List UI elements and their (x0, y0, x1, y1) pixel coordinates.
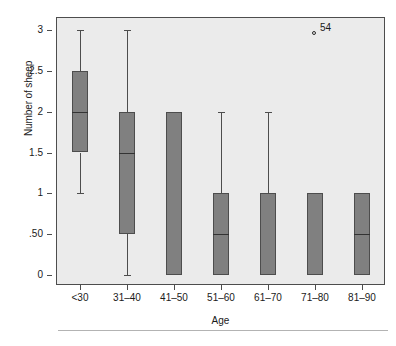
y-axis-tick: 1 (0, 193, 52, 194)
x-axis-tick-mark (362, 285, 363, 290)
x-axis-tick-mark (221, 285, 222, 290)
y-axis-tick-mark (47, 30, 52, 31)
whisker-lower (80, 153, 81, 194)
x-axis-tick-label: 81–90 (332, 292, 392, 303)
whisker-lower-cap (124, 275, 131, 276)
y-axis-tick-mark (47, 275, 52, 276)
median-line (119, 153, 135, 154)
y-axis-tick-label: 2 (37, 105, 43, 118)
median-line (213, 234, 229, 235)
y-axis-tick: 1.5 (0, 153, 52, 154)
x-axis-tick-mark (315, 285, 316, 290)
y-axis-tick: 2 (0, 112, 52, 113)
y-axis-tick-mark (47, 153, 52, 154)
x-axis-tick-mark (127, 285, 128, 290)
outlier-label: 54 (320, 22, 331, 33)
y-axis-tick-label: .50 (29, 227, 43, 240)
y-axis-tick: 3 (0, 30, 52, 31)
whisker-lower-cap (77, 193, 84, 194)
median-line (354, 234, 370, 235)
y-axis-tick-label: 3 (37, 23, 43, 36)
whisker-upper (127, 30, 128, 112)
y-axis-tick: 2.5 (0, 71, 52, 72)
x-axis-tick-mark (174, 285, 175, 290)
whisker-lower (127, 234, 128, 275)
x-axis-tick-mark (80, 285, 81, 290)
y-axis-tick-label: 2.5 (29, 64, 43, 77)
y-axis-tick-mark (47, 193, 52, 194)
whisker-upper (268, 112, 269, 194)
y-axis-tick: .50 (0, 234, 52, 235)
whisker-upper (80, 30, 81, 71)
whisker-upper-cap (77, 30, 84, 31)
box-plot-figure: Number of sheep 0.5011.522.53 <3031–4041… (0, 0, 396, 346)
y-axis-tick-mark (47, 234, 52, 235)
y-axis-tick-mark (47, 71, 52, 72)
y-axis-tick-mark (47, 112, 52, 113)
whisker-upper-cap (218, 112, 225, 113)
y-axis-tick-label: 1 (37, 186, 43, 199)
box-glyph (119, 112, 135, 235)
box-glyph (307, 193, 323, 275)
y-axis-tick-label: 1.5 (29, 146, 43, 159)
whisker-upper (221, 112, 222, 194)
x-axis-title: Age (56, 315, 385, 326)
box-glyph (260, 193, 276, 275)
footer-divider (58, 330, 388, 331)
outlier-marker (312, 31, 316, 35)
whisker-upper-cap (124, 30, 131, 31)
median-line (72, 112, 88, 113)
y-axis-tick-label: 0 (37, 268, 43, 281)
y-axis-tick: 0 (0, 275, 52, 276)
box-glyph (166, 112, 182, 275)
whisker-upper-cap (265, 112, 272, 113)
x-axis-tick-mark (268, 285, 269, 290)
